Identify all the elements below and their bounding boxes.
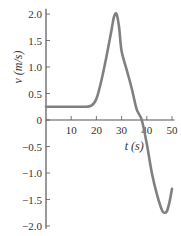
y-axis-label: v (m/s) xyxy=(11,51,25,84)
x-tick-label: 20 xyxy=(91,124,103,136)
y-tick-label: −1.0 xyxy=(22,167,42,179)
y-tick-label: 0 xyxy=(37,114,43,126)
y-tick-label: 2.0 xyxy=(28,8,42,20)
velocity-curve xyxy=(46,13,172,213)
velocity-time-chart: 2.01.51.00.50−0.5−1.0−1.5−2.01020304050 … xyxy=(0,0,181,236)
x-axis-label: t (s) xyxy=(125,139,144,153)
x-tick-label: 50 xyxy=(167,124,179,136)
y-tick-label: 1.0 xyxy=(28,61,42,73)
x-tick-label: 10 xyxy=(66,124,78,136)
y-tick-label: −1.5 xyxy=(22,194,42,206)
y-tick-label: 0.5 xyxy=(28,88,42,100)
y-tick-label: −0.5 xyxy=(22,141,42,153)
y-tick-label: −2.0 xyxy=(22,220,42,232)
y-tick-label: 1.5 xyxy=(28,35,42,47)
x-tick-label: 30 xyxy=(116,124,128,136)
